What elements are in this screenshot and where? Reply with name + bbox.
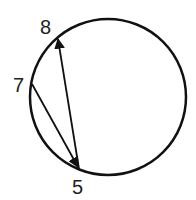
label-7: 7 [13, 74, 24, 96]
circle [30, 19, 186, 175]
circle-diagram: 8 7 5 [0, 0, 196, 200]
label-5: 5 [72, 176, 83, 198]
label-8: 8 [40, 16, 51, 38]
